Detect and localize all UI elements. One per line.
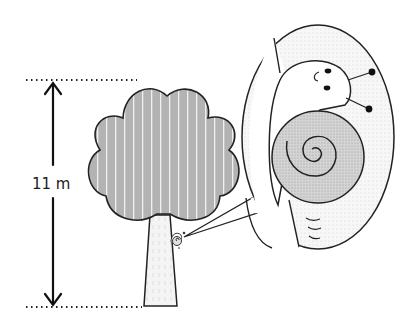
diagram-canvas bbox=[0, 0, 419, 331]
snail-shell bbox=[272, 111, 364, 203]
tree-trunk bbox=[144, 215, 177, 306]
antenna-tip-icon bbox=[366, 106, 373, 113]
antenna-tip-icon bbox=[369, 69, 376, 76]
height-label: 11 m bbox=[32, 173, 70, 195]
eye-icon bbox=[325, 69, 332, 74]
tree-crown bbox=[89, 89, 239, 220]
eye-icon bbox=[324, 86, 331, 91]
